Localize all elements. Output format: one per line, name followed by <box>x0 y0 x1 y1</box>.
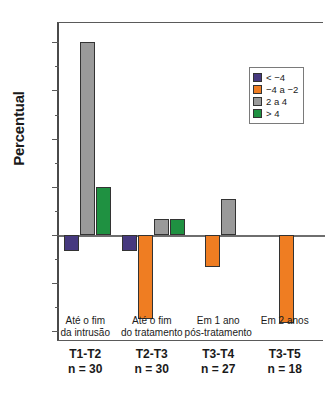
category-label: T1-T2 <box>69 347 101 361</box>
y-tick-mark-minor <box>55 115 59 116</box>
bar <box>80 42 95 235</box>
legend: < −4−4 a −22 a 4> 4 <box>249 67 304 124</box>
y-tick-mark-minor <box>55 163 59 164</box>
y-tick-mark <box>52 90 59 91</box>
legend-label: > 4 <box>266 109 279 119</box>
bar <box>122 235 137 251</box>
legend-item: > 4 <box>253 108 300 119</box>
y-tick-mark <box>52 283 59 284</box>
y-tick-mark-minor <box>55 66 59 67</box>
legend-swatch <box>253 85 262 94</box>
bar <box>138 235 153 319</box>
category-description: Em 2 anos <box>240 315 326 327</box>
sample-size-label: n = 18 <box>240 362 326 377</box>
y-tick-mark <box>52 235 59 236</box>
y-axis-title: Percentual <box>10 49 27 209</box>
y-tick-mark-minor <box>55 211 59 212</box>
category-footer: T3-T5n = 18 <box>240 347 326 377</box>
legend-swatch <box>253 97 262 106</box>
y-tick-mark <box>52 42 59 43</box>
legend-swatch <box>253 73 262 82</box>
legend-item: < −4 <box>253 72 300 83</box>
bar <box>205 235 220 267</box>
legend-label: −4 a −2 <box>266 85 298 95</box>
legend-swatch <box>253 109 262 118</box>
category-label: T3-T5 <box>269 347 301 361</box>
bar-chart: Percentual 4030201001020 < −4−4 a −22 a … <box>0 0 326 396</box>
y-tick-mark <box>52 187 59 188</box>
category-description-line1: Até o fim <box>66 315 105 326</box>
bar <box>221 199 236 235</box>
bar <box>64 235 79 251</box>
category-description-line2: pós-tratamento <box>173 327 263 339</box>
bar <box>170 219 185 235</box>
y-tick-mark-minor <box>55 307 59 308</box>
y-tick-mark <box>52 139 59 140</box>
category-description-line1: Em 1 ano <box>197 315 240 326</box>
x-axis-rule <box>57 340 323 341</box>
bar <box>279 235 294 323</box>
y-tick-mark-minor <box>55 259 59 260</box>
legend-label: 2 a 4 <box>266 97 287 107</box>
legend-label: < −4 <box>266 73 285 83</box>
legend-item: 2 a 4 <box>253 96 300 107</box>
legend-item: −4 a −2 <box>253 84 300 95</box>
category-description-line1: Em 2 anos <box>261 315 309 326</box>
category-label: T3-T4 <box>202 347 234 361</box>
bar <box>154 219 169 235</box>
category-description-line1: Até o fim <box>132 315 171 326</box>
bar <box>96 187 111 235</box>
category-label: T2-T3 <box>136 347 168 361</box>
